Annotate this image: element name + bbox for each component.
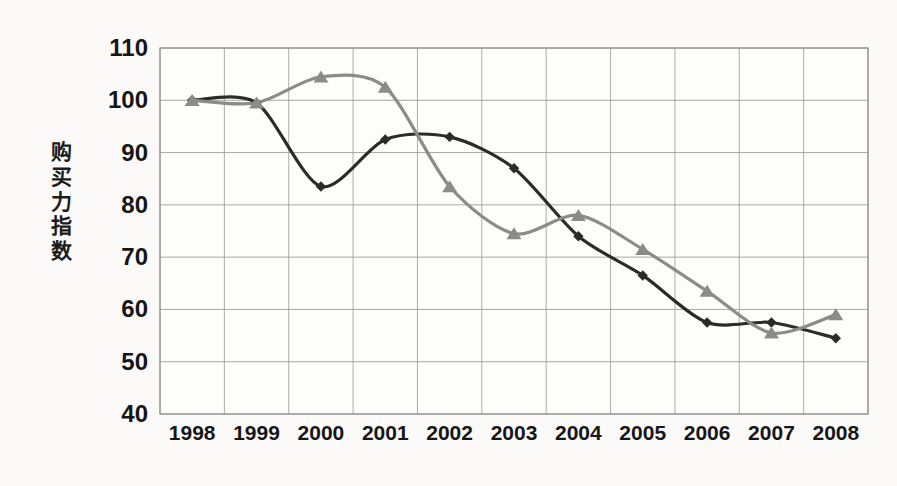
x-axis-tick-1998: 1998 xyxy=(169,421,216,445)
x-axis-tick-2004: 2004 xyxy=(555,421,602,445)
x-axis-tick-2008: 2008 xyxy=(812,421,859,445)
purchasing-power-index-chart: 购 买 力 指 数 110100908070605040 19981999200… xyxy=(0,0,897,486)
x-axis-tick-2001: 2001 xyxy=(362,421,409,445)
x-axis-tick-1999: 1999 xyxy=(233,421,280,445)
x-axis-tick-2000: 2000 xyxy=(298,421,345,445)
x-axis-tick-2006: 2006 xyxy=(684,421,731,445)
x-axis-tick-2002: 2002 xyxy=(426,421,473,445)
x-axis-tick-2007: 2007 xyxy=(748,421,795,445)
x-axis-tick-2003: 2003 xyxy=(491,421,538,445)
x-axis-tick-2005: 2005 xyxy=(619,421,666,445)
plot-area xyxy=(0,0,897,486)
